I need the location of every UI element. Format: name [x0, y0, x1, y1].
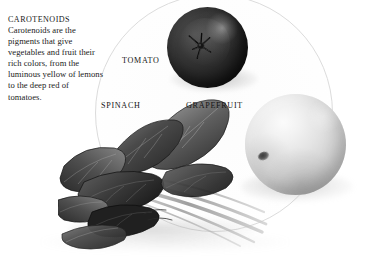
caption-title: CAROTENOIDS — [8, 14, 104, 25]
tomato-image — [166, 6, 250, 90]
tomato-stem-icon — [183, 28, 219, 64]
caption-body: Carotenoids are the pigments that give v… — [8, 25, 104, 103]
caption-block: CAROTENOIDS Carotenoids are the pigments… — [8, 14, 104, 103]
label-grapefruit: GRAPEFRUIT — [186, 101, 243, 110]
spinach-image — [58, 96, 288, 256]
carotenoids-figure: CAROTENOIDS Carotenoids are the pigments… — [0, 0, 377, 273]
tomato-body — [167, 7, 248, 88]
label-tomato: TOMATO — [122, 56, 160, 65]
label-spinach: SPINACH — [101, 101, 141, 110]
spinach-leaves-graphic — [58, 96, 288, 256]
